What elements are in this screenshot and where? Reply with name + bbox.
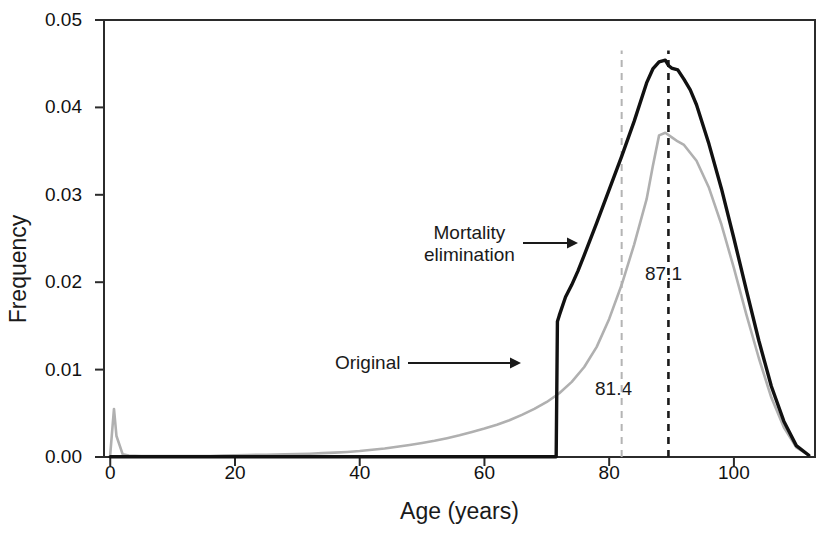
axis-ticks [95, 20, 734, 466]
plot-area [0, 0, 829, 538]
mean-reference-lines [622, 51, 669, 457]
chart-screenshot: Frequency Age (years) 0.000.010.020.030.… [0, 0, 829, 538]
annotation-arrows [408, 238, 578, 369]
plot-frame [104, 20, 815, 457]
data-series [110, 60, 809, 457]
arrow-mortality-elimination-head [567, 238, 578, 249]
plot-border [104, 20, 815, 457]
series-line-original [110, 133, 809, 456]
arrow-original-head [510, 358, 521, 369]
series-line-mortality-elimination [110, 60, 809, 457]
